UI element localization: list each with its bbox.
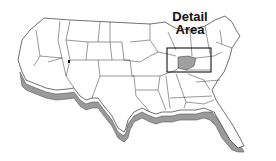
label-line-2: Area [160, 23, 220, 36]
us-map-figure: Detail Area [0, 0, 276, 161]
detail-area-label: Detail Area [160, 10, 220, 36]
location-marker [68, 60, 70, 63]
us-map [0, 0, 276, 161]
